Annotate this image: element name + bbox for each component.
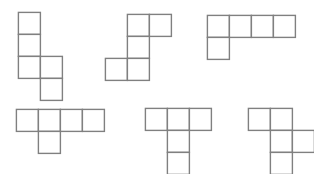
pentomino-cell bbox=[127, 58, 149, 80]
pentomino-cell bbox=[127, 36, 149, 58]
pentomino-cell bbox=[127, 14, 149, 36]
pentomino-cell bbox=[167, 108, 189, 130]
pentomino-cell bbox=[82, 109, 104, 131]
pentomino-figure bbox=[0, 0, 314, 174]
pentomino-cell bbox=[229, 15, 251, 37]
pentomino-canvas bbox=[206, 14, 297, 61]
pentomino-s-pentomino bbox=[104, 13, 173, 82]
pentomino-f-pentomino bbox=[247, 107, 314, 174]
pentomino-cell bbox=[145, 108, 167, 130]
pentomino-cell bbox=[270, 130, 292, 152]
pentomino-cell bbox=[40, 56, 62, 78]
pentomino-cell bbox=[40, 78, 62, 100]
pentomino-canvas bbox=[104, 13, 173, 82]
pentomino-cell bbox=[248, 108, 270, 130]
pentomino-cell bbox=[16, 109, 38, 131]
pentomino-cell bbox=[38, 131, 60, 153]
pentomino-cell bbox=[207, 15, 229, 37]
pentomino-t-pentomino bbox=[144, 107, 213, 174]
pentomino-cell bbox=[273, 15, 295, 37]
pentomino-cell bbox=[167, 130, 189, 152]
pentomino-cell bbox=[18, 56, 40, 78]
pentomino-canvas bbox=[17, 11, 64, 102]
pentomino-cell bbox=[149, 14, 171, 36]
pentomino-cell bbox=[18, 34, 40, 56]
pentomino-cell bbox=[105, 58, 127, 80]
pentomino-cell bbox=[38, 109, 60, 131]
pentomino-canvas bbox=[247, 107, 314, 174]
pentomino-cell bbox=[189, 108, 211, 130]
pentomino-cell bbox=[207, 37, 229, 59]
pentomino-l-pentomino bbox=[206, 14, 297, 61]
pentomino-cell bbox=[18, 12, 40, 34]
pentomino-canvas bbox=[15, 108, 106, 155]
pentomino-cell bbox=[270, 108, 292, 130]
pentomino-y-pentomino bbox=[15, 108, 106, 155]
pentomino-canvas bbox=[144, 107, 213, 174]
pentomino-n-pentomino bbox=[17, 11, 64, 102]
pentomino-cell bbox=[251, 15, 273, 37]
pentomino-cell bbox=[292, 130, 314, 152]
pentomino-cell bbox=[167, 152, 189, 174]
pentomino-cell bbox=[270, 152, 292, 174]
pentomino-cell bbox=[60, 109, 82, 131]
